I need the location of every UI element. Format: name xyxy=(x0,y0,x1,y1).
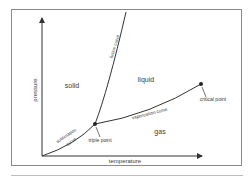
phase-diagram: pressure temperature solid liquid gas fu… xyxy=(0,0,252,177)
fusion-curve-label: fusion curve xyxy=(109,34,121,59)
triple-point-pointer xyxy=(96,127,100,137)
y-axis-label: pressure xyxy=(32,78,38,102)
x-axis-label: temperature xyxy=(109,158,142,164)
fusion-curve xyxy=(95,12,126,124)
triple-point-label: triple point xyxy=(88,137,112,143)
triple-point-marker xyxy=(93,122,97,126)
vaporization-curve xyxy=(95,84,201,124)
bottom-separator xyxy=(11,175,243,176)
critical-point-label: critical point xyxy=(200,96,227,102)
region-gas-label: gas xyxy=(154,128,166,136)
region-liquid-label: liquid xyxy=(138,76,154,84)
region-solid-label: solid xyxy=(65,82,80,89)
critical-point-marker xyxy=(199,82,203,86)
